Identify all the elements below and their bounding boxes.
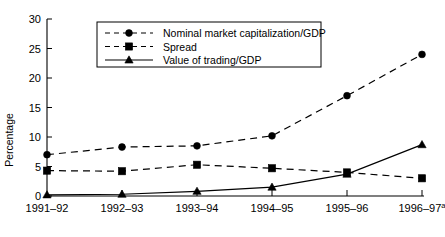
y-tick-label: 10 [29, 131, 41, 143]
data-point-marker [418, 175, 425, 182]
x-tick-label: 1996–97a [399, 201, 445, 214]
data-point-marker [419, 51, 426, 58]
data-point-marker [344, 92, 351, 99]
line-chart: Percentage 051015202530 1991–921992–9319… [0, 0, 445, 237]
data-point-marker [269, 132, 276, 139]
y-axis-title: Percentage [3, 113, 15, 167]
y-tick-label: 0 [35, 190, 41, 202]
x-tick-label: 1995–96 [326, 202, 369, 214]
data-point-marker [44, 151, 51, 158]
x-tick-label-superscript: a [441, 201, 445, 210]
x-tick-label: 1994–95 [251, 202, 294, 214]
data-point-marker [193, 161, 200, 168]
y-tick-label: 15 [29, 102, 41, 114]
chart-legend: Nominal market capitalization/GDPSpreadV… [97, 22, 326, 67]
data-point-marker [268, 165, 275, 172]
legend-label: Value of trading/GDP [163, 54, 261, 66]
y-tick-label: 30 [29, 13, 41, 25]
legend-label: Nominal market capitalization/GDP [163, 27, 326, 39]
data-point-marker [126, 30, 133, 37]
y-tick-label: 20 [29, 72, 41, 84]
x-tick-label: 1993–94 [176, 202, 219, 214]
legend-label: Spread [163, 41, 197, 53]
x-tick-label: 1991–92 [26, 202, 69, 214]
data-point-marker [194, 142, 201, 149]
data-point-marker [119, 144, 126, 151]
data-point-marker [43, 167, 50, 174]
data-point-marker [125, 43, 132, 50]
chart-container: Percentage 051015202530 1991–921992–9319… [0, 0, 445, 237]
x-tick-label: 1992–93 [101, 202, 144, 214]
y-tick-label: 25 [29, 43, 41, 55]
data-point-marker [118, 168, 125, 175]
y-tick-label: 5 [35, 161, 41, 173]
